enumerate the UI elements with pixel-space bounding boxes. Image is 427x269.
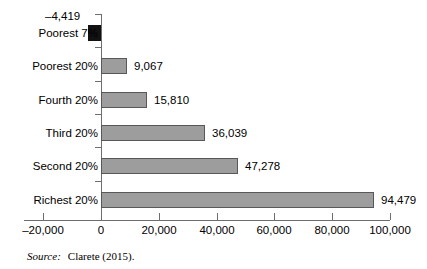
plot-area: Poorest 7% Poorest 20% Fourth 20% Third … xyxy=(0,0,427,225)
value-axis-tick xyxy=(101,213,102,220)
xtick-label-minus-20000: –20,000 xyxy=(22,224,64,237)
value-label-second-20: 47,278 xyxy=(245,160,280,173)
value-axis-line xyxy=(24,220,390,221)
bar-fourth-20 xyxy=(101,92,147,108)
category-axis-line xyxy=(101,14,102,220)
category-label-third-20: Third 20% xyxy=(0,127,98,140)
value-label-third-20: 36,039 xyxy=(212,127,247,140)
bar-second-20 xyxy=(101,158,238,174)
source-text: Clarete (2015). xyxy=(68,250,135,262)
category-label-poorest-7: Poorest 7% xyxy=(0,27,98,40)
value-axis-tick xyxy=(159,213,160,220)
xtick-label-60000: 60,000 xyxy=(256,224,291,237)
bar-third-20 xyxy=(101,125,205,141)
value-label-fourth-20: 15,810 xyxy=(154,94,189,107)
category-axis-tick xyxy=(95,14,101,15)
value-label-poorest-7: –4,419 xyxy=(45,10,80,23)
xtick-label-0: 0 xyxy=(98,224,104,237)
value-axis-tick xyxy=(217,213,218,220)
xtick-label-20000: 20,000 xyxy=(141,224,176,237)
bar-chart-figure: Poorest 7% Poorest 20% Fourth 20% Third … xyxy=(0,0,427,269)
value-label-poorest-20: 9,067 xyxy=(134,60,163,73)
category-label-richest-20: Richest 20% xyxy=(0,194,98,207)
category-axis-tick xyxy=(95,181,101,182)
xtick-label-40000: 40,000 xyxy=(199,224,234,237)
category-label-poorest-20: Poorest 20% xyxy=(0,60,98,73)
xtick-label-80000: 80,000 xyxy=(314,224,349,237)
xtick-label-100000: 100,000 xyxy=(369,224,411,237)
category-axis-tick xyxy=(95,147,101,148)
category-axis-tick xyxy=(95,81,101,82)
source-note: Source:Clarete (2015). xyxy=(27,250,134,263)
category-axis-tick xyxy=(95,114,101,115)
value-axis-tick xyxy=(43,213,44,220)
value-label-richest-20: 94,479 xyxy=(381,194,416,207)
category-label-second-20: Second 20% xyxy=(0,160,98,173)
value-axis-tick xyxy=(274,213,275,220)
category-axis-tick xyxy=(95,47,101,48)
value-axis-tick xyxy=(332,213,333,220)
bar-richest-20 xyxy=(101,192,374,208)
bar-poorest-20 xyxy=(101,58,127,74)
value-axis-tick xyxy=(390,213,391,220)
source-label: Source: xyxy=(27,250,61,262)
category-label-fourth-20: Fourth 20% xyxy=(0,94,98,107)
